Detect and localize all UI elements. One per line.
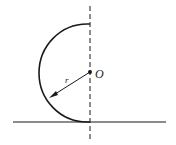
semicircle-diagram: O r — [0, 0, 176, 145]
center-point — [88, 70, 92, 74]
radius-arrow — [52, 72, 90, 96]
radius-label: r — [65, 75, 69, 85]
center-label: O — [95, 67, 104, 81]
arrowhead-icon — [49, 91, 58, 98]
semicircle-arc — [39, 24, 90, 122]
